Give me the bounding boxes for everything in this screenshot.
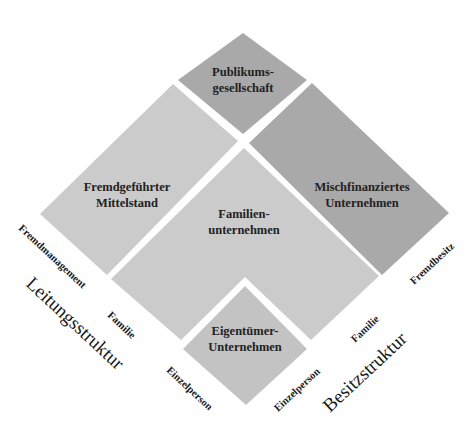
axis-leitung-tick-familie: Familie (106, 309, 138, 340)
cell-eigentuemer-line1: Eigentümer- (212, 324, 279, 338)
cell-publikumsgesellschaft-line2: gesellschaft (212, 81, 274, 95)
cell-fremdgefuehrter-line2: Mittelstand (96, 196, 158, 210)
cell-familienunternehmen-line1: Familien- (218, 207, 269, 221)
cell-mischfinanziertes-line1: Mischfinanziertes (314, 180, 409, 194)
axis-besitz-tick-fremdbesitz: Fremdbesitz (408, 240, 457, 286)
ownership-management-matrix: Publikums- gesellschaft Mischfinanzierte… (0, 0, 471, 432)
cell-publikumsgesellschaft-line1: Publikums- (212, 65, 274, 79)
cell-eigentuemer-line2: Unternehmen (208, 340, 282, 354)
cell-familienunternehmen-line2: unternehmen (208, 223, 280, 237)
axis-besitz-tick-familie: Familie (349, 313, 381, 344)
axis-leitung-tick-einzelperson: Einzelperson (165, 364, 215, 412)
cell-mischfinanziertes-line2: Unternehmen (325, 196, 399, 210)
cell-fremdgefuehrter-line1: Fremdgeführter (84, 180, 171, 194)
axis-besitz-title: Besitzstruktur (318, 327, 411, 416)
